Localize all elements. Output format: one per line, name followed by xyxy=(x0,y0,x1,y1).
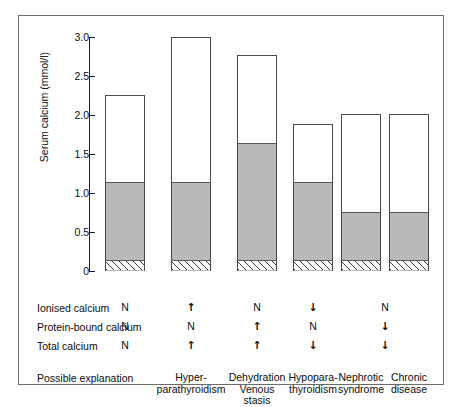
cell-protein_bound-col5: ↓ xyxy=(355,321,415,332)
y-tick-mark xyxy=(89,76,95,77)
ionised-calcium-segment xyxy=(172,182,210,271)
column-name-2: Hyper-parathyroidism xyxy=(153,372,229,395)
column-name-line: Chronic xyxy=(371,372,447,384)
cell-total-col5: ↓ xyxy=(355,340,415,351)
bar-4 xyxy=(293,124,333,271)
cell-total-col2: ↑ xyxy=(161,340,221,351)
y-tick-label-wrap: 1.0 xyxy=(41,188,89,198)
y-tick-label: 2.0 xyxy=(55,110,89,120)
bar-3 xyxy=(237,55,277,271)
y-tick-label: 1.0 xyxy=(55,188,89,198)
cell-protein_bound-col1: N xyxy=(95,321,155,332)
column-name-6: Chronicdisease xyxy=(371,372,447,395)
complexed-calcium-segment xyxy=(238,260,276,270)
cell-ionised-col4: ↓ xyxy=(283,302,343,313)
y-tick-label-wrap: 1.5 xyxy=(41,149,89,159)
ionised-calcium-segment xyxy=(106,182,144,271)
row-label-3: Total calcium xyxy=(37,340,98,352)
ionised-calcium-segment xyxy=(294,182,332,271)
y-tick-mark xyxy=(89,271,95,272)
bar-2 xyxy=(171,37,211,271)
complexed-calcium-segment xyxy=(172,260,210,270)
indicator-table: Ionised calciumProtein-bound calciumTota… xyxy=(19,288,445,386)
y-tick-mark xyxy=(89,193,95,194)
complexed-calcium-segment xyxy=(390,260,428,270)
y-tick-label: 1.5 xyxy=(55,149,89,159)
ionised-calcium-segment xyxy=(238,143,276,271)
y-tick-label-wrap: 2.0 xyxy=(41,110,89,120)
cell-ionised-col5: N xyxy=(355,302,415,313)
complexed-calcium-segment xyxy=(342,260,380,270)
y-tick-mark xyxy=(89,115,95,116)
column-name-line: stasis xyxy=(219,395,295,407)
y-tick-mark xyxy=(89,154,95,155)
y-tick-label: 0.5 xyxy=(55,227,89,237)
cell-total-col4: ↓ xyxy=(283,340,343,351)
cell-protein_bound-col2: N xyxy=(161,321,221,332)
y-tick-label: 2.5 xyxy=(55,71,89,81)
cell-ionised-col1: N xyxy=(95,302,155,313)
column-name-line: Hyper- xyxy=(153,372,229,384)
column-name-line: parathyroidism xyxy=(153,384,229,396)
cell-total-col1: N xyxy=(95,340,155,351)
cell-protein_bound-col3: ↑ xyxy=(227,321,287,332)
figure-frame: Serum calcium (mmol/l) 00.51.01.52.02.53… xyxy=(18,15,444,385)
y-tick-label-wrap: 2.5 xyxy=(41,71,89,81)
y-tick-label-wrap: 0 xyxy=(41,266,89,276)
complexed-calcium-segment xyxy=(106,260,144,270)
y-tick-mark xyxy=(89,232,95,233)
cell-ionised-col2: ↑ xyxy=(161,302,221,313)
column-name-line: disease xyxy=(371,384,447,396)
complexed-calcium-segment xyxy=(294,260,332,270)
y-tick-label: 3.0 xyxy=(55,32,89,42)
cell-protein_bound-col4: N xyxy=(283,321,343,332)
bar-1 xyxy=(105,95,145,271)
cell-ionised-col3: N xyxy=(227,302,287,313)
bar-6 xyxy=(389,114,429,271)
cell-total-col3: ↑ xyxy=(227,340,287,351)
y-tick-label-wrap: 3.0 xyxy=(41,32,89,42)
bar-5 xyxy=(341,114,381,271)
y-tick-mark xyxy=(89,37,95,38)
y-tick-label: 0 xyxy=(55,266,89,276)
y-axis-title: Serum calcium (mmol/l) xyxy=(38,22,50,192)
row-label-4: Possible explanation xyxy=(37,372,133,384)
y-tick-label-wrap: 0.5 xyxy=(41,227,89,237)
